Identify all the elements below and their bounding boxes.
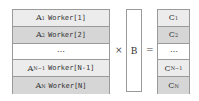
worker-label: Worker[N] (49, 82, 87, 90)
matrix-b: B (126, 9, 142, 92)
matrix-c-row-n: CN (158, 77, 189, 94)
matrix-b-label: B (131, 46, 138, 56)
matrix-a-row-n-minus-1: AN−1Worker[N-1] (13, 60, 109, 77)
row-subscript: N−1 (171, 65, 183, 71)
matrix-c-row-2: C2 (158, 27, 189, 44)
row-subscript: N (174, 83, 178, 89)
matrix-c-row-1: C1 (158, 10, 189, 27)
ellipsis: ⋯ (57, 47, 65, 56)
row-subscript: 2 (175, 32, 178, 38)
matrix-c-row-n-minus-1: CN−1 (158, 60, 189, 77)
row-subscript: 1 (42, 15, 45, 21)
row-subscript: N−1 (33, 65, 45, 71)
matrix-a: A1Worker[1] A2Worker[2] ⋯ AN−1Worker[N-1… (12, 9, 110, 94)
ellipsis: ⋯ (170, 47, 178, 56)
row-subscript: 1 (175, 15, 178, 21)
matrix-a-row-ellipsis: ⋯ (13, 44, 109, 61)
worker-label: Worker[1] (48, 14, 86, 22)
worker-label: Worker[N-1] (48, 64, 94, 72)
worker-label: Worker[2] (48, 31, 86, 39)
matrix-a-row-1: A1Worker[1] (13, 10, 109, 27)
matrix-a-row-2: A2Worker[2] (13, 27, 109, 44)
row-subscript: N (41, 83, 45, 89)
equals-operator: = (146, 45, 154, 55)
matrix-a-row-n: ANWorker[N] (13, 77, 109, 94)
row-subscript: 2 (42, 32, 45, 38)
multiply-operator: × (115, 45, 123, 55)
matrix-c-row-ellipsis: ⋯ (158, 44, 189, 61)
matrix-c: C1 C2 ⋯ CN−1 CN (157, 9, 190, 94)
